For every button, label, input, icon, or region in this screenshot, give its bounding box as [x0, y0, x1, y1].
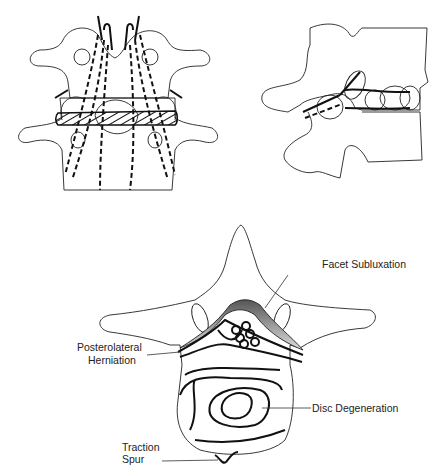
facet-subluxation-leader [265, 275, 288, 308]
label-spur-line2: Spur [122, 453, 144, 465]
lateral-view-panel [262, 24, 428, 178]
label-disc-degeneration: Disc Degeneration [312, 402, 398, 414]
label-herniation-line2: Herniation [88, 354, 136, 366]
label-posterolateral-line1: Posterolateral [77, 341, 142, 353]
posterior-view-panel [19, 16, 218, 190]
label-facet-subluxation: Facet Subluxation [322, 258, 406, 270]
posterolateral-herniation-leader [147, 352, 180, 355]
traction-spur-leader [162, 460, 218, 461]
label-traction-line1: Traction [122, 441, 160, 453]
